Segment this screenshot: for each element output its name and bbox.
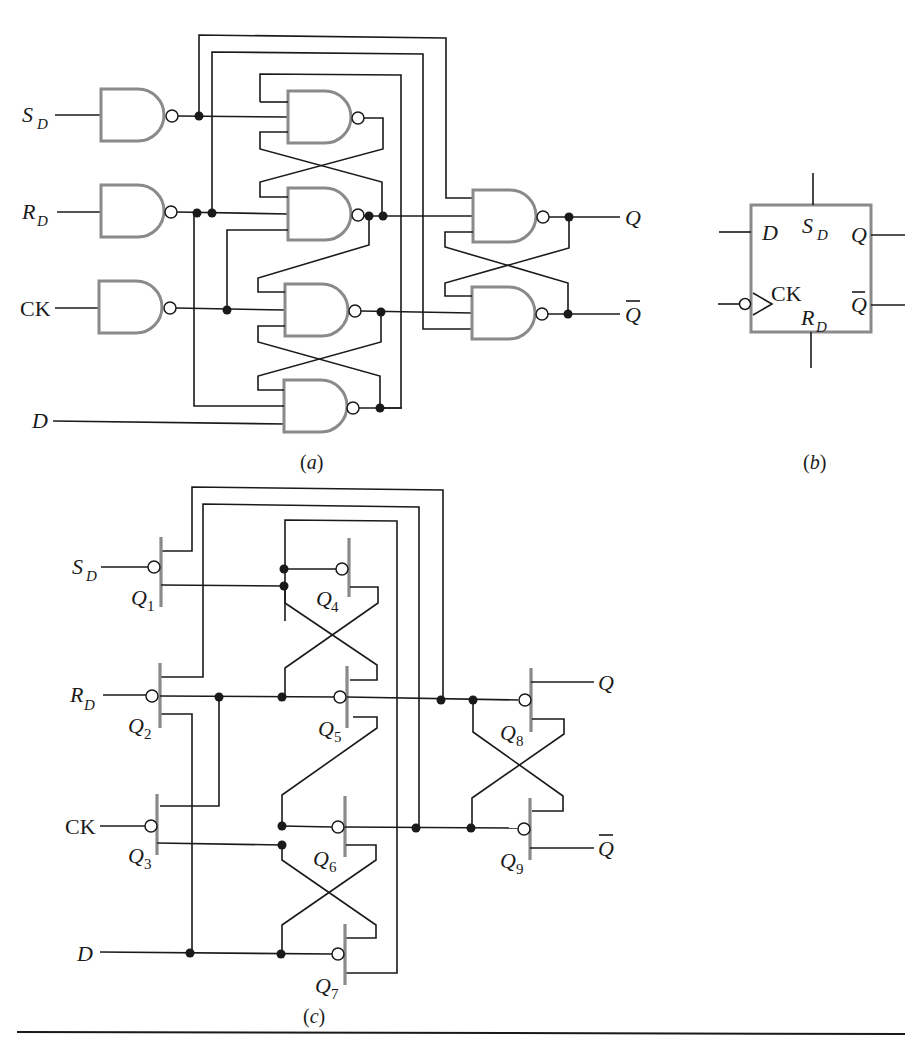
svg-text:9: 9 [516, 861, 524, 877]
label-sd: S [22, 102, 33, 127]
nand-gate-1 [288, 91, 351, 143]
svg-text:Q: Q [313, 846, 329, 871]
pin-rd: R [800, 305, 815, 330]
label-q: Q [598, 670, 614, 695]
svg-text:Q: Q [318, 716, 334, 741]
nand-gate-ck [99, 281, 162, 333]
label-d: D [76, 941, 93, 966]
inversion-bubble [164, 302, 176, 314]
svg-text:4: 4 [331, 599, 339, 615]
svg-text:3: 3 [144, 856, 152, 872]
inversion-bubble [537, 211, 549, 223]
caption-a: (a) [300, 451, 323, 474]
svg-text:Q: Q [500, 848, 516, 873]
caption-c: (c) [303, 1005, 325, 1028]
nand-gate-out-qbar [472, 287, 535, 339]
label-qbar: Q [598, 836, 614, 861]
svg-text:D: D [85, 568, 97, 584]
pin-q: Q [851, 222, 867, 247]
svg-text:Q: Q [131, 585, 147, 610]
inversion-bubble [166, 110, 178, 122]
inversion-bubble [536, 308, 548, 320]
svg-text:D: D [816, 227, 828, 243]
label-rd: R [69, 682, 84, 707]
inversion-bubble [165, 206, 177, 218]
inversion-bubble [352, 209, 364, 221]
svg-text:D: D [815, 319, 827, 335]
panel-b-block-symbol: D S D Q CK R D Q (b) [718, 173, 905, 474]
svg-text:8: 8 [516, 733, 524, 749]
label-rd: R [21, 199, 36, 224]
svg-text:Q: Q [316, 586, 332, 611]
inversion-bubble [352, 112, 364, 124]
circuit-figure: S D R D CK D [0, 0, 919, 1046]
nand-gate-out-q [473, 190, 536, 242]
svg-text:Q: Q [500, 720, 516, 745]
pin-d: D [761, 220, 778, 245]
label-ck: CK [65, 814, 96, 839]
svg-text:2: 2 [144, 726, 152, 742]
panel-a-nand-implementation: S D R D CK D [20, 35, 641, 474]
label-rd-sub: D [36, 213, 48, 229]
label-sd: S [72, 554, 83, 579]
svg-text:6: 6 [329, 859, 337, 875]
svg-text:Q: Q [128, 843, 144, 868]
nand-gate-3 [285, 284, 348, 336]
svg-text:D: D [83, 697, 95, 713]
panel-c-transistor-implementation: S D R D CK D Q 1 Q 4 Q 2 [65, 487, 614, 1028]
clock-inversion-bubble [740, 299, 751, 310]
nand-gate-rd [101, 185, 164, 237]
caption-b: (b) [803, 451, 826, 474]
svg-text:Q: Q [128, 713, 144, 738]
nand-gate-2 [288, 188, 351, 240]
inversion-bubble [347, 402, 359, 414]
nand-gate-sd [101, 89, 164, 141]
bottom-rule [17, 1032, 905, 1034]
pin-sd: S [802, 213, 813, 238]
inversion-bubble [349, 305, 361, 317]
pin-qbar: Q [851, 292, 867, 317]
svg-text:Q: Q [315, 973, 331, 998]
label-qbar: Q [625, 302, 641, 327]
label-q: Q [625, 205, 641, 230]
label-ck: CK [20, 296, 51, 321]
label-sd-sub: D [36, 116, 48, 132]
svg-text:1: 1 [147, 598, 155, 614]
label-d: D [31, 408, 48, 433]
svg-text:7: 7 [331, 986, 339, 1002]
pin-ck: CK [771, 281, 802, 306]
svg-text:5: 5 [334, 729, 342, 745]
nand-gate-4 [284, 380, 347, 432]
